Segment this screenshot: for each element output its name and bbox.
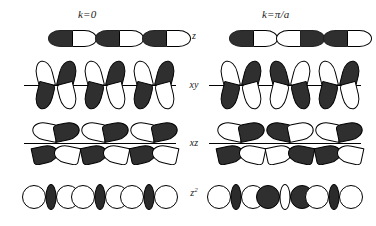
lobe-lower-right xyxy=(56,81,79,111)
lobe-lower-right xyxy=(101,143,130,166)
orbital-d-z2 xyxy=(305,182,363,212)
lobe-upper-right xyxy=(335,120,364,143)
lobe-left xyxy=(305,185,329,209)
cell-xz-k0 xyxy=(24,116,176,170)
lobe-left xyxy=(142,30,167,47)
superscript-two: 2 xyxy=(194,186,198,194)
lobe-lower-right xyxy=(335,143,364,166)
orbital-d-xy xyxy=(30,59,82,111)
lobe-lower-right xyxy=(339,81,362,111)
cell-xy-kpia xyxy=(209,58,361,112)
orbital-d-xy xyxy=(313,59,365,111)
orbital-d-xz xyxy=(215,117,267,169)
column-header-k0: k=0 xyxy=(78,8,96,20)
torus-ring xyxy=(280,184,291,210)
lobe-lower-left xyxy=(218,81,241,111)
lobe-right xyxy=(154,185,178,209)
lobe-right xyxy=(347,30,372,47)
lobe-left xyxy=(276,30,301,47)
lobe-lower-right xyxy=(154,81,177,111)
torus-ring xyxy=(144,184,155,210)
lobe-lower-left xyxy=(316,81,339,111)
torus-ring xyxy=(231,184,242,210)
lobe-right xyxy=(119,30,144,47)
lobe-left xyxy=(323,30,348,47)
torus-ring xyxy=(46,184,57,210)
orbital-band-figure: k=0 k=π/a z xy xz z2 xyxy=(0,0,376,226)
lobe-upper-right xyxy=(286,120,315,143)
lobe-upper-right xyxy=(237,120,266,143)
row-label-xy: xy xyxy=(179,79,209,90)
cell-xy-k0 xyxy=(24,58,176,112)
orbital-d-xz xyxy=(128,117,180,169)
cell-z2-k0 xyxy=(22,182,176,214)
orbital-d-xy xyxy=(215,59,267,111)
cell-z2-kpia xyxy=(207,182,361,214)
cell-z-k0 xyxy=(48,28,176,50)
lobe-lower-right xyxy=(52,143,81,166)
torus-ring xyxy=(329,184,340,210)
lobe-left xyxy=(22,185,46,209)
lobe-lower-left xyxy=(267,81,290,111)
lobe-left xyxy=(71,185,95,209)
orbital-d-xz xyxy=(30,117,82,169)
row-label-xz: xz xyxy=(179,137,209,148)
column-header-k-pi-a: k=π/a xyxy=(262,8,289,20)
lobe-lower-left xyxy=(33,81,56,111)
cell-xz-kpia xyxy=(209,116,361,170)
lobe-lower-left xyxy=(131,81,154,111)
torus-ring xyxy=(95,184,106,210)
lobe-left xyxy=(229,30,254,47)
lobe-right xyxy=(253,30,278,47)
orbital-d-z2 xyxy=(120,182,178,212)
orbital-d-xz xyxy=(313,117,365,169)
orbital-d-xy xyxy=(128,59,180,111)
lobe-lower-right xyxy=(150,143,179,166)
lobe-upper-right xyxy=(101,120,130,143)
lobe-right xyxy=(166,30,191,47)
lobe-lower-left xyxy=(82,81,105,111)
lobe-upper-right xyxy=(52,120,81,143)
orbital-d-xy xyxy=(79,59,131,111)
orbital-d-xy xyxy=(264,59,316,111)
lobe-right xyxy=(339,185,363,209)
cell-z-kpia xyxy=(229,28,357,50)
lobe-left xyxy=(120,185,144,209)
lobe-lower-right xyxy=(241,81,264,111)
lobe-right xyxy=(300,30,325,47)
lobe-left xyxy=(207,185,231,209)
lobe-left xyxy=(48,30,73,47)
lobe-lower-right xyxy=(105,81,128,111)
orbital-d-xz xyxy=(79,117,131,169)
lobe-left xyxy=(256,185,280,209)
row-label-z-squared: z2 xyxy=(179,186,209,198)
lobe-upper-right xyxy=(150,120,179,143)
lobe-lower-right xyxy=(290,81,313,111)
lobe-lower-right xyxy=(237,143,266,166)
lobe-right xyxy=(72,30,97,47)
orbital-d-xz xyxy=(264,117,316,169)
lobe-left xyxy=(95,30,120,47)
lobe-lower-right xyxy=(286,143,315,166)
